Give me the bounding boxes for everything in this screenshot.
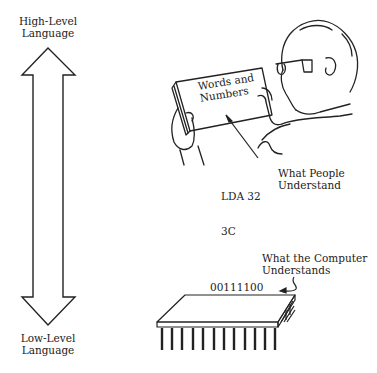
- assembly-code-label: LDA 32: [221, 190, 261, 202]
- binary-code-label: 00111100: [210, 281, 263, 293]
- microchip-icon: [157, 295, 295, 327]
- low-level-language-label: Low-Level Language: [12, 332, 84, 356]
- chip-pins: [162, 328, 275, 350]
- high-level-language-label: High-Level Language: [12, 15, 84, 39]
- pointer-arrow-to-chip: [280, 277, 296, 293]
- what-people-understand-caption: What People Understand: [278, 167, 345, 191]
- double-arrow-icon: [22, 48, 75, 325]
- hex-code-label: 3C: [221, 225, 236, 237]
- what-computer-understands-caption: What the Computer Understands: [262, 252, 367, 276]
